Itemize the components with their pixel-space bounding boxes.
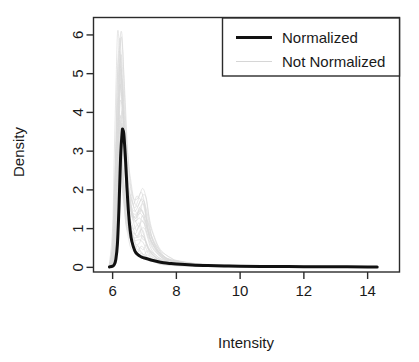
y-axis-tick-label: 0 xyxy=(69,263,86,271)
x-axis-tick-label: 6 xyxy=(108,282,116,299)
x-axis-title: Intensity xyxy=(218,334,274,351)
density-plot-figure: 68101214 0123456 Intensity Density Norma… xyxy=(0,0,419,362)
legend-label[interactable]: Normalized xyxy=(282,29,358,46)
legend-label[interactable]: Not Normalized xyxy=(282,53,385,70)
y-axis-tick-label: 5 xyxy=(69,69,86,77)
chart-canvas: 68101214 0123456 Intensity Density Norma… xyxy=(0,0,419,362)
y-axis-tick-label: 6 xyxy=(69,31,86,39)
y-axis-tick-label: 2 xyxy=(69,186,86,194)
x-axis-tick-label: 12 xyxy=(296,282,313,299)
x-axis-tick-label: 10 xyxy=(232,282,249,299)
chart-legend[interactable]: NormalizedNot Normalized xyxy=(223,18,400,76)
y-axis-tick-label: 1 xyxy=(69,224,86,232)
y-axis-tick-label: 4 xyxy=(69,108,86,116)
x-axis-tick-label: 14 xyxy=(359,282,376,299)
x-axis-tick-label: 8 xyxy=(172,282,180,299)
y-axis-tick-label: 3 xyxy=(69,147,86,155)
y-axis-title: Density xyxy=(10,126,27,177)
